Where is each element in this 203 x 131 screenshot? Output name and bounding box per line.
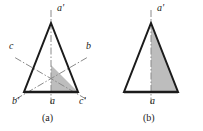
label-right-mid-b-panel-a: b [86,41,91,51]
label-bottom-left-b-prime-panel-a: b' [12,96,19,106]
label-left-mid-c-panel-a: c [9,41,13,51]
caption-panel-b: (b) [143,113,155,123]
figure-root: a' c b b' a c' (a) a' a (b) [0,0,203,131]
panel-b: a' a (b) [102,0,203,131]
shaded-region-a [51,65,78,92]
label-bottom-center-a-panel-a: a [50,96,55,106]
panel-a: a' c b b' a c' (a) [0,0,102,131]
label-apex-a-prime-panel-b: a' [157,3,164,13]
label-bottom-right-c-prime-panel-a: c' [79,96,86,106]
label-apex-a-prime-panel-a: a' [57,3,64,13]
label-bottom-center-a-panel-b: a [150,96,155,106]
caption-panel-a: (a) [42,113,53,123]
